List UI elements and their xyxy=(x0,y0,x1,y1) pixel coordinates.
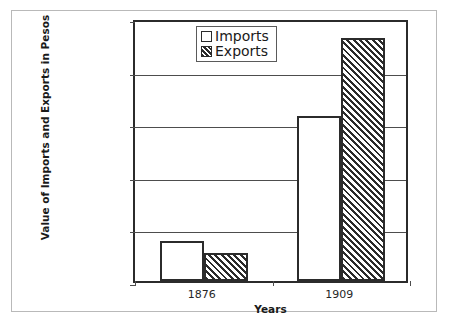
chart-legend: Imports Exports xyxy=(196,26,277,62)
bar-exports-1876 xyxy=(204,253,248,281)
bar-imports-1876 xyxy=(160,241,204,281)
y-axis-tick-mark xyxy=(130,75,135,76)
x-axis-tick-mark xyxy=(410,281,411,286)
bar-exports-1909 xyxy=(341,38,385,281)
y-axis-tick-mark xyxy=(130,127,135,128)
legend-label-imports: Imports xyxy=(215,29,269,44)
x-axis-tick-mark xyxy=(135,281,136,286)
x-axis-tick-label-1909: 1909 xyxy=(299,289,379,300)
y-axis-tick-mark xyxy=(130,180,135,181)
y-axis-title: Value of Imports and Exports in Pesos xyxy=(40,20,51,240)
legend-swatch-imports-icon xyxy=(201,31,212,42)
legend-swatch-exports-icon xyxy=(201,46,212,57)
y-axis-tick-mark xyxy=(130,232,135,233)
legend-label-exports: Exports xyxy=(215,44,268,59)
legend-item-imports: Imports xyxy=(201,29,269,44)
legend-item-exports: Exports xyxy=(201,44,269,59)
x-axis-title: Years xyxy=(133,304,408,315)
chart-figure: Value of Imports and Exports in Pesos 05… xyxy=(0,0,450,325)
x-axis-tick-mark xyxy=(273,281,274,286)
x-axis-tick-label-1876: 1876 xyxy=(162,289,242,300)
y-axis-tick-mark xyxy=(130,22,135,23)
bar-imports-1909 xyxy=(297,116,341,281)
